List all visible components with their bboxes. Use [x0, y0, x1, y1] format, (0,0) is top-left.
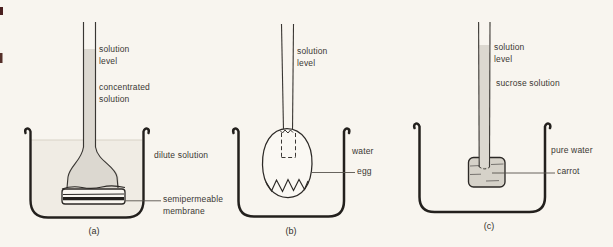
label-concentrated-solution: concentrated solution [99, 82, 150, 105]
tube-wall-left [282, 24, 284, 131]
caption-c: (c) [478, 221, 500, 231]
scan-mark [0, 7, 3, 15]
label-solution-level-b: solution level [297, 46, 328, 69]
label-water: water [352, 146, 374, 158]
tube-wall-right [293, 24, 294, 131]
label-egg: egg [357, 166, 372, 178]
panel-a [25, 22, 161, 218]
panel-c [414, 22, 555, 212]
sucrose-solution-column [479, 45, 489, 167]
label-solution-level-a: solution level [99, 44, 130, 67]
panel-b [233, 24, 355, 217]
egg-outline [262, 129, 312, 198]
osmosis-figure: solution level concentrated solution dil… [0, 0, 613, 247]
diagram-canvas [0, 0, 613, 247]
caption-b: (b) [280, 226, 302, 236]
membrane-line [63, 194, 124, 195]
scan-mark [0, 53, 3, 63]
label-dilute-solution: dilute solution [154, 150, 208, 162]
label-sucrose-solution: sucrose solution [496, 78, 560, 90]
label-carrot: carrot [557, 166, 580, 178]
caption-a: (a) [83, 226, 105, 236]
tube-wall-right [490, 22, 491, 167]
label-semipermeable-membrane: semipermeable membrane [163, 194, 223, 217]
tube-wall-left [479, 22, 480, 167]
label-pure-water: pure water [551, 145, 593, 157]
semipermeable-membrane [62, 189, 125, 204]
concentrated-solution-column [68, 49, 120, 188]
label-solution-level-c: solution level [494, 42, 525, 65]
